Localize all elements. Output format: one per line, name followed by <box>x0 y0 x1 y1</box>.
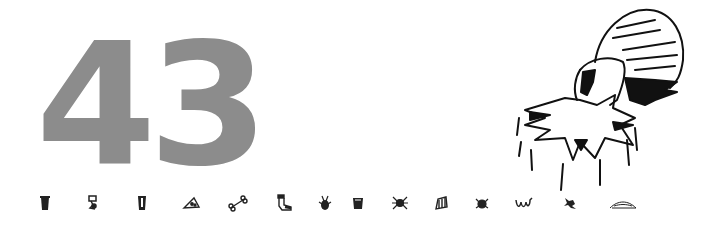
robot-figure-icon <box>82 192 104 214</box>
tick-biting-star-illustration <box>505 0 708 215</box>
trash-can-icon <box>34 192 56 214</box>
bucket-icon <box>347 192 369 214</box>
bone-icon <box>227 192 249 214</box>
cup-icon <box>131 192 153 214</box>
worm-icon <box>513 192 535 214</box>
icon-row <box>0 192 708 218</box>
bug-icon <box>314 192 336 214</box>
spider-icon <box>389 192 411 214</box>
trash-bag-icon <box>430 192 452 214</box>
page-number: 43 <box>36 20 261 190</box>
leaf-icon <box>608 192 638 214</box>
pizza-slice-icon <box>180 192 202 214</box>
sock-icon <box>272 192 294 214</box>
lizard-icon <box>559 192 581 214</box>
tick-icon <box>471 192 493 214</box>
